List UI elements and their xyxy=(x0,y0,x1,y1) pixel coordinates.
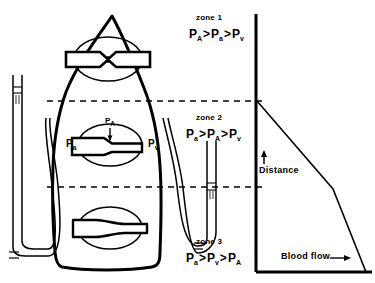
zone-1-operator-1: > xyxy=(202,27,211,41)
zone-1-term-3: Pv xyxy=(232,27,244,41)
arterial-pressure-label: Pa xyxy=(66,139,76,152)
zone-2-operator-1: > xyxy=(198,127,207,141)
zone-3-operator-2: > xyxy=(219,251,228,265)
zone-2-operator-2: > xyxy=(220,127,229,141)
alveolus-zone-2 xyxy=(72,124,142,166)
chart-xlabel: Blood flow xyxy=(281,252,330,261)
zone-1-term-2: Pa xyxy=(211,27,223,41)
zone-1-term-1: PA xyxy=(189,27,202,41)
zone-3-term-1: Pa xyxy=(186,251,198,265)
zone-1-inequality: PA>Pa>Pv xyxy=(189,28,244,42)
zone-2-title: zone 2 xyxy=(196,114,222,122)
left-tube-fluid-hatch xyxy=(16,95,19,104)
zone-3-term-3: PA xyxy=(228,251,241,265)
zone-3-title: zone 3 xyxy=(196,238,222,246)
left-manometer-tube xyxy=(13,75,48,256)
figure-canvas: zone 1 PA>Pa>Pv zone 2 Pa>PA>Pv zone 3 P… xyxy=(0,0,375,283)
zone-2-term-1: Pa xyxy=(186,127,198,141)
zone-3-term-2: Pv xyxy=(207,251,219,265)
capillary-zone-3 xyxy=(73,220,147,237)
right-tube-fluid-hatch xyxy=(210,191,213,199)
chart-ylabel: Distance xyxy=(259,166,299,175)
chart-bloodflow-arrow xyxy=(330,255,351,261)
venous-pressure-label: Pv xyxy=(148,139,158,152)
zone-1-title: zone 1 xyxy=(196,14,222,22)
chart-distance-arrow xyxy=(261,150,267,164)
zone-3-inequality: Pa>Pv>PA xyxy=(186,252,241,266)
alveolar-pressure-label: PA xyxy=(105,117,115,127)
zone-2-term-3: Pv xyxy=(229,127,241,141)
zone-1-operator-2: > xyxy=(223,27,232,41)
zone-3-operator-1: > xyxy=(198,251,207,265)
left-tube-fluid-level xyxy=(13,87,22,93)
alveolus-zone-3 xyxy=(73,207,147,249)
chart-flow-curve xyxy=(257,101,366,272)
zone-2-inequality: Pa>PA>Pv xyxy=(186,128,241,142)
zone-2-term-2: PA xyxy=(207,127,220,141)
blood-flow-chart xyxy=(256,14,372,272)
